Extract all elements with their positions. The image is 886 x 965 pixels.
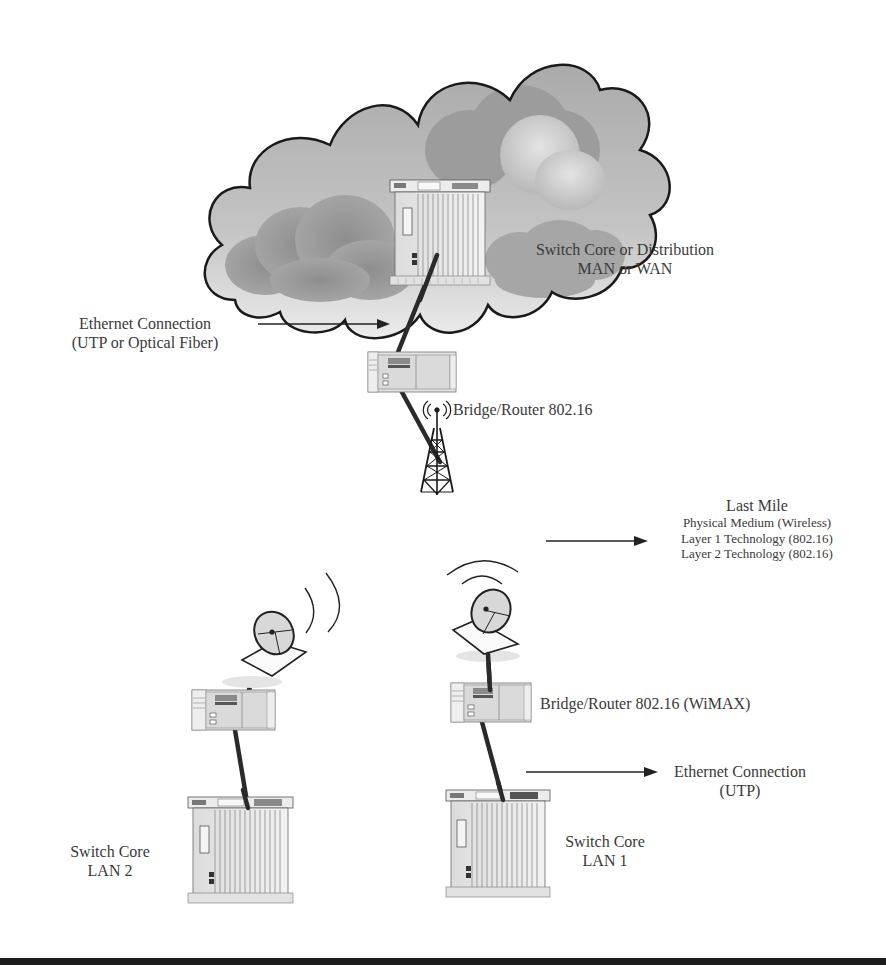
last-mile-line-2: Layer 1 Technology (802.16) xyxy=(652,531,862,547)
cloud-label-line2: MAN or WAN xyxy=(515,259,735,278)
arrow-last-mile xyxy=(546,536,648,546)
cloud-label-line1: Switch Core or Distribution xyxy=(515,240,735,259)
lan1-line2: LAN 1 xyxy=(555,851,655,870)
radio-waves-lan1 xyxy=(447,561,518,584)
lan1-label: Switch Core LAN 1 xyxy=(555,832,655,870)
last-mile-label: Last Mile Physical Medium (Wireless) Lay… xyxy=(652,496,862,562)
ethernet-bottom-line1: Ethernet Connection xyxy=(660,762,820,781)
cloud-label: Switch Core or Distribution MAN or WAN xyxy=(515,240,735,278)
radio-tower-icon[interactable] xyxy=(421,401,453,495)
base-station-label: Bridge/Router 802.16 xyxy=(453,400,593,419)
ethernet-top-label: Ethernet Connection (UTP or Optical Fibe… xyxy=(50,314,240,352)
switch-icon-lan1[interactable] xyxy=(446,790,550,897)
last-mile-line-3: Layer 2 Technology (802.16) xyxy=(652,546,862,562)
satellite-dish-icon-lan1[interactable] xyxy=(453,583,520,662)
last-mile-title: Last Mile xyxy=(652,496,862,515)
subscriber-router-label: Bridge/Router 802.16 (WiMAX) xyxy=(540,694,750,713)
switch-icon-lan2[interactable] xyxy=(188,797,293,903)
link-lan1-dish-overlay xyxy=(488,654,490,690)
lan2-label: Switch Core LAN 2 xyxy=(60,842,160,880)
ethernet-bottom-label: Ethernet Connection (UTP) xyxy=(660,762,820,800)
router-icon-lan2[interactable] xyxy=(192,690,275,730)
ethernet-top-line1: Ethernet Connection xyxy=(50,314,240,333)
network-diagram xyxy=(0,0,886,965)
satellite-dish-icon-lan2[interactable] xyxy=(222,604,306,688)
cloud-router-icon[interactable] xyxy=(368,352,456,392)
bottom-rule xyxy=(0,958,886,965)
lan2-line2: LAN 2 xyxy=(60,861,160,880)
lan1-line1: Switch Core xyxy=(555,832,655,851)
radio-waves-lan2 xyxy=(305,573,340,633)
arrow-ethernet-bottom xyxy=(526,767,658,777)
ethernet-bottom-line2: (UTP) xyxy=(660,781,820,800)
ethernet-top-line2: (UTP or Optical Fiber) xyxy=(50,333,240,352)
lan2-line1: Switch Core xyxy=(60,842,160,861)
core-switch-icon[interactable] xyxy=(390,180,490,285)
link-router-to-tower xyxy=(397,383,440,462)
last-mile-line-1: Physical Medium (Wireless) xyxy=(652,515,862,531)
